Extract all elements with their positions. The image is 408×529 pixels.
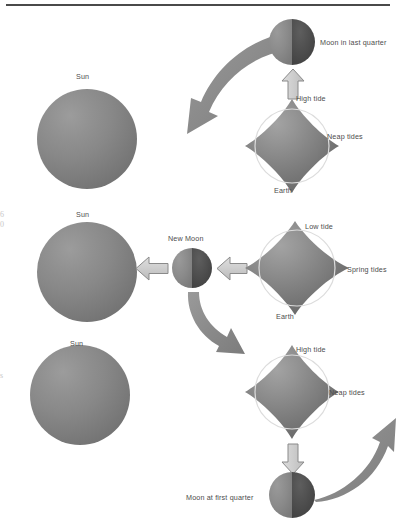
high-tide-label-row3: High tide — [296, 345, 326, 354]
block-arrow-left-sun-row2 — [135, 256, 169, 281]
curved-arrow-row3 — [308, 406, 400, 502]
neap-tides-label-row3: Neap tides — [329, 388, 365, 397]
tides-diagram-figure: 6 0 s — [0, 0, 408, 529]
moon-body-last-quarter — [269, 19, 315, 65]
sun-label-row3: Sun — [70, 339, 83, 348]
earth-body-spring-row2 — [243, 219, 351, 317]
edge-mark-2: 0 — [0, 220, 7, 229]
top-rule-divider — [6, 4, 390, 6]
moon-label-last-quarter: Moon in last quarter — [320, 38, 387, 47]
moon-label-new: New Moon — [168, 234, 204, 243]
neap-tides-label-row1: Neap tides — [327, 132, 363, 141]
sun-body-row3 — [30, 345, 130, 445]
high-tide-label-row1: High tide — [296, 94, 326, 103]
sun-body-row2 — [37, 222, 137, 322]
sun-body-row1 — [37, 89, 137, 189]
curved-arrow-row2 — [185, 290, 251, 360]
sun-label-row1: Sun — [76, 72, 89, 81]
low-tide-label-row2: Low tide — [305, 222, 333, 231]
earth-body-neap-row1 — [243, 97, 341, 195]
moon-body-new — [172, 248, 212, 288]
block-arrow-down-row3 — [281, 443, 305, 475]
moon-label-first-quarter: Moon at first quarter — [186, 493, 253, 502]
sun-label-row2: Sun — [76, 210, 89, 219]
earth-label-row1: Earth — [274, 186, 292, 195]
edge-mark-3: s — [0, 371, 7, 380]
spring-tides-label-row2: Spring tides — [347, 265, 387, 274]
earth-label-row2: Earth — [276, 312, 294, 321]
edge-mark-1: 6 — [0, 210, 7, 219]
